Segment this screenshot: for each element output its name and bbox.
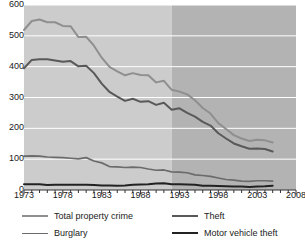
- y-tick-label-100: 100: [2, 154, 24, 163]
- legend-label: Total property crime: [54, 211, 133, 221]
- plot-area: [0, 0, 305, 200]
- legend-swatch-icon: [22, 233, 48, 234]
- x-tick-label-1998: 1998: [203, 190, 233, 200]
- legend-item-2[interactable]: Burglary: [22, 226, 88, 240]
- legend-item-0[interactable]: Total property crime: [22, 209, 133, 223]
- legend-item-3[interactable]: Motor vehicle theft: [172, 226, 278, 240]
- x-tick-label-2008: 2008: [281, 190, 305, 200]
- legend-swatch-icon: [172, 232, 198, 234]
- x-tick-label-1983: 1983: [87, 190, 117, 200]
- x-axis-tick-labels: 19731978198319881993199820032008: [0, 190, 305, 206]
- y-tick-label-500: 500: [2, 31, 24, 40]
- property-crime-line-chart: 0100200300400500600 19731978198319881993…: [0, 0, 305, 243]
- y-tick-label-400: 400: [2, 62, 24, 71]
- chart-legend: Total property crimeTheftBurglaryMotor v…: [0, 207, 305, 243]
- y-axis-tick-labels: 0100200300400500600: [0, 0, 24, 200]
- legend-label: Burglary: [54, 228, 88, 238]
- y-tick-label-300: 300: [2, 93, 24, 102]
- x-tick-label-1973: 1973: [9, 190, 39, 200]
- x-tick-label-1988: 1988: [126, 190, 156, 200]
- x-tick-label-1978: 1978: [48, 190, 78, 200]
- legend-swatch-icon: [172, 215, 198, 217]
- x-tick-label-2003: 2003: [242, 190, 272, 200]
- legend-label: Motor vehicle theft: [204, 228, 278, 238]
- x-tick-label-1993: 1993: [164, 190, 194, 200]
- plot-svg: [0, 0, 305, 200]
- y-tick-label-200: 200: [2, 123, 24, 132]
- legend-item-1[interactable]: Theft: [172, 209, 225, 223]
- y-tick-label-600: 600: [2, 0, 24, 9]
- legend-label: Theft: [204, 211, 225, 221]
- legend-swatch-icon: [22, 215, 48, 217]
